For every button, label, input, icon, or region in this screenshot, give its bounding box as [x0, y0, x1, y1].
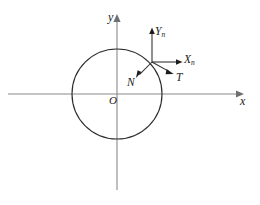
x-axis	[8, 90, 244, 97]
vector-n	[136, 62, 152, 78]
vector-t-arrowhead	[166, 69, 174, 74]
y-axis-label: y	[108, 11, 113, 23]
vector-n-shaft	[139, 62, 152, 75]
figure-container: y x O Yn Xn N T	[0, 0, 260, 205]
diagram-canvas	[0, 0, 260, 205]
vector-xn-arrowhead	[176, 59, 183, 65]
vector-t	[152, 62, 174, 74]
vector-n-label: N	[127, 77, 135, 89]
vector-xn-label-subscript: n	[191, 58, 195, 67]
vector-yn	[149, 28, 155, 63]
vector-xn-label: Xn	[184, 54, 195, 67]
y-axis-arrowhead	[113, 14, 120, 22]
vector-yn-label: Yn	[155, 26, 165, 39]
vector-t-label: T	[176, 72, 182, 84]
x-axis-label: x	[240, 95, 245, 107]
vector-xn-label-base: X	[184, 53, 191, 65]
vector-yn-arrowhead	[149, 28, 155, 35]
vector-yn-label-subscript: n	[161, 30, 165, 39]
origin-label: O	[109, 95, 117, 106]
